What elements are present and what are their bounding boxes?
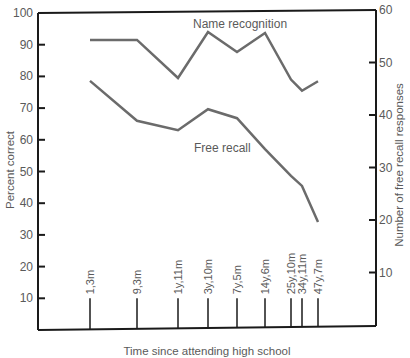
left-axis-title: Percent correct [4, 130, 16, 209]
left-tick-label: 30 [20, 228, 34, 242]
right-axis-title: Number of free recall responses [393, 83, 405, 247]
right-tick-label: 10 [379, 266, 393, 280]
right-tick-label: 40 [379, 108, 393, 122]
x-axis-title: Time since attending high school [123, 345, 290, 357]
left-tick-label: 90 [20, 38, 34, 52]
series-label-free-recall: Free recall [194, 141, 251, 155]
right-tick-label: 60 [379, 3, 393, 17]
right-tick-label: 30 [379, 161, 393, 175]
x-tick-label: 7y,5m [231, 265, 243, 294]
x-tick-label: 34y,11m [296, 254, 308, 295]
left-y-axis: 102030405060708090100 [13, 6, 45, 305]
left-tick-label: 50 [20, 165, 34, 179]
x-tick-label: 14y,6m [259, 259, 271, 294]
x-tick-label: 1y,11m [172, 260, 184, 294]
left-tick-label: 80 [20, 69, 34, 83]
x-tick-label: 3y,10m [202, 259, 214, 294]
x-tick-label: 47y,7m [312, 259, 324, 294]
left-tick-label: 10 [20, 291, 34, 305]
left-tick-label: 40 [20, 196, 34, 210]
left-tick-label: 100 [13, 6, 33, 20]
left-tick-label: 20 [20, 260, 34, 274]
chart: 102030405060708090100 102030405060 1,3m9… [0, 0, 410, 358]
x-tick-label: 9,3m [131, 270, 143, 294]
series-label-name-recognition: Name recognition [193, 17, 287, 31]
x-tick-label: 1,3m [84, 270, 96, 294]
right-tick-label: 20 [379, 213, 393, 227]
left-tick-label: 70 [20, 101, 34, 115]
right-y-axis: 102030405060 [369, 3, 393, 280]
series-line-name-recognition [90, 32, 318, 91]
right-tick-label: 50 [379, 56, 393, 70]
x-axis-ticks: 1,3m9,3m1y,11m3y,10m7y,5m14y,6m25y,10m34… [84, 253, 324, 329]
series-lines [90, 32, 318, 222]
left-tick-label: 60 [20, 133, 34, 147]
